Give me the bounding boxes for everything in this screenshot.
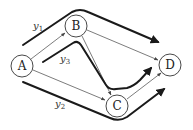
node-a: A (11, 55, 33, 77)
path-y1-line (23, 10, 158, 45)
node-d-label: D (165, 58, 175, 72)
node-c: C (106, 95, 128, 117)
node-b: B (65, 15, 87, 37)
node-a-label: A (17, 59, 27, 73)
path-y3-label: y3 (59, 53, 70, 66)
node-b-label: B (72, 19, 81, 33)
path-y3-line (43, 42, 151, 89)
edge-b-d (87, 30, 158, 60)
path-y2-label: y2 (54, 98, 65, 111)
node-c-label: C (112, 99, 121, 113)
network-diagram: y1 y3 y2 A B C D (0, 0, 193, 130)
path-y1-label: y1 (32, 20, 43, 33)
edge-a-c (33, 70, 105, 100)
node-d: D (159, 54, 181, 76)
graph-edges (31, 30, 161, 100)
path-y2-line (23, 82, 164, 120)
flow-paths (23, 10, 164, 120)
